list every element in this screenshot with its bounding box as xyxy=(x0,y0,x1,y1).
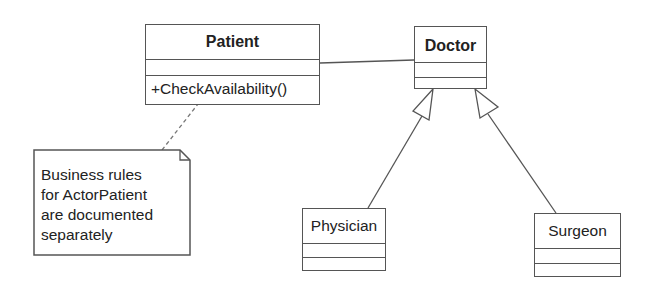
class-patient[interactable]: Patient +CheckAvailability() xyxy=(145,24,320,105)
generalization-arrowhead-icon xyxy=(475,89,498,118)
operations-section xyxy=(535,263,620,275)
class-surgeon[interactable]: Surgeon xyxy=(534,213,621,277)
note-line: for ActorPatient xyxy=(41,185,189,205)
class-name: Surgeon xyxy=(535,214,620,248)
class-name: Patient xyxy=(146,25,319,59)
class-doctor[interactable]: Doctor xyxy=(414,26,487,89)
note-line: are documented xyxy=(41,205,189,225)
generalization-surgeon-doctor xyxy=(488,114,556,213)
operations-section xyxy=(303,257,385,269)
operations-section xyxy=(415,77,486,87)
note-comment[interactable]: Business rules for ActorPatient are docu… xyxy=(41,165,189,245)
note-line: separately xyxy=(41,225,189,245)
class-name: Physician xyxy=(303,209,385,243)
note-line: Business rules xyxy=(41,165,189,185)
attributes-section xyxy=(535,248,620,263)
class-name: Doctor xyxy=(415,27,486,62)
generalization-arrowhead-icon xyxy=(413,89,433,120)
operation: +CheckAvailability() xyxy=(151,80,287,97)
attributes-section xyxy=(303,243,385,257)
operations-section: +CheckAvailability() xyxy=(146,75,319,103)
note-anchor-line xyxy=(162,104,198,150)
attributes-section xyxy=(146,59,319,75)
generalization-physician-doctor xyxy=(368,116,422,208)
attributes-section xyxy=(415,62,486,77)
association-patient-doctor xyxy=(320,60,414,63)
class-physician[interactable]: Physician xyxy=(302,208,386,271)
